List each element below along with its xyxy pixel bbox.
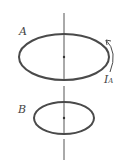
- loop-a-label: A: [19, 26, 27, 37]
- loop-b-center-dot: [63, 117, 65, 119]
- current-subscript: A: [108, 77, 113, 85]
- loop-b-label: B: [18, 104, 26, 115]
- loop-a-center-dot: [63, 56, 65, 58]
- current-label: IA: [104, 74, 113, 85]
